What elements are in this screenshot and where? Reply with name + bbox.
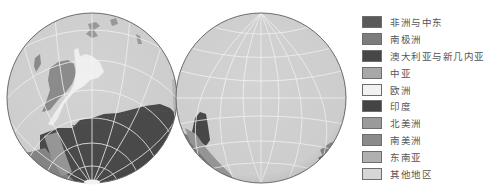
legend-swatch [362, 168, 382, 180]
legend-label: 南极洲 [390, 32, 422, 46]
legend-swatch [362, 67, 382, 79]
legend-swatch [362, 117, 382, 129]
legend-item-north-america: 北美洲 [362, 115, 487, 132]
legend-swatch [362, 50, 382, 62]
legend-item-australia-new-guinea: 澳大利亚与新几内亚 [362, 48, 487, 65]
legend-swatch [362, 16, 382, 28]
legend-label: 东南亚 [390, 150, 422, 164]
legend-item-africa-middle-east: 非洲与中东 [362, 14, 487, 31]
legend-swatch [362, 134, 382, 146]
right-globe [176, 13, 346, 190]
legend-item-southeast-asia: 东南亚 [362, 148, 487, 165]
legend-item-south-america: 南美洲 [362, 132, 487, 149]
legend-swatch [362, 84, 382, 96]
legend-swatch [362, 33, 382, 45]
legend-item-other-regions: 其他地区 [362, 165, 487, 182]
legend-label: 非洲与中东 [390, 15, 443, 29]
legend-label: 澳大利亚与新几内亚 [390, 49, 485, 63]
legend-label: 其他地区 [390, 167, 432, 181]
legend-label: 北美洲 [390, 116, 422, 130]
legend-swatch [362, 151, 382, 163]
legend-item-antarctica: 南极洲 [362, 31, 487, 48]
legend-item-europe: 欧洲 [362, 81, 487, 98]
legend-item-india: 印度 [362, 98, 487, 115]
legend-swatch [362, 100, 382, 112]
globe-maps [0, 0, 350, 190]
legend-label: 印度 [390, 99, 411, 113]
legend-label: 南美洲 [390, 133, 422, 147]
legend: 非洲与中东 南极洲 澳大利亚与新几内亚 中亚 欧洲 印度 北美洲 南美洲 东南亚… [362, 14, 487, 182]
legend-item-central-asia: 中亚 [362, 64, 487, 81]
legend-label: 欧洲 [390, 83, 411, 97]
legend-label: 中亚 [390, 66, 411, 80]
